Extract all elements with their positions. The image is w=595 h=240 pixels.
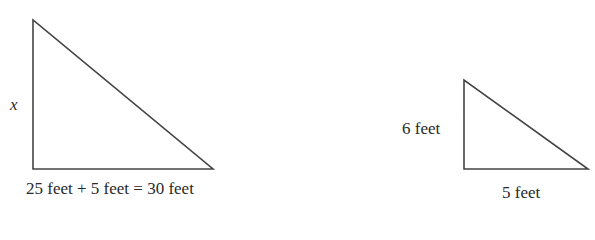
large-triangle [33, 20, 213, 169]
large-triangle-height-label: x [10, 96, 18, 113]
small-triangle-base-label: 5 feet [502, 184, 540, 201]
small-triangle [464, 80, 588, 169]
large-triangle-base-label: 25 feet + 5 feet = 30 feet [26, 180, 194, 197]
small-triangle-height-label: 6 feet [402, 120, 440, 137]
